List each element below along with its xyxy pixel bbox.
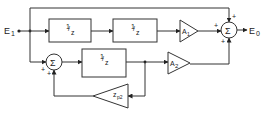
delay2-den: z <box>136 29 140 36</box>
loop-sign-bottom: + <box>47 70 51 77</box>
delay3-slash: / <box>102 55 104 62</box>
loop-sign-left: + <box>41 66 45 73</box>
loop-sum-symbol: Σ <box>50 58 56 68</box>
wire-junction-feedback <box>128 62 145 96</box>
feedback-sub: p2 <box>117 94 123 100</box>
delay1-slash: / <box>68 25 70 32</box>
summer-loop: Σ + + <box>41 54 62 77</box>
output-label: E <box>249 26 255 36</box>
delay-block-2: 1 / z <box>113 19 157 42</box>
sum-symbol: Σ <box>225 26 231 36</box>
input-label: E <box>4 26 10 36</box>
delay-block-1: 1 / z <box>49 19 91 42</box>
wire-in-loopsum <box>30 31 46 62</box>
output-label-sub: 0 <box>256 30 260 37</box>
summer-output: Σ + + + <box>214 13 237 45</box>
a1-sub: 1 <box>187 31 190 37</box>
input-label-sub: 1 <box>11 30 15 37</box>
gain-a1: A 1 <box>180 20 198 42</box>
sum-sign-bottom: + <box>221 38 225 45</box>
sum-sign-top: + <box>232 13 236 20</box>
delay2-slash: / <box>133 25 135 32</box>
gain-feedback: z p2 <box>93 84 128 108</box>
delay-block-3: 1 / z <box>82 49 126 77</box>
delay3-den: z <box>105 59 109 66</box>
output-node: E 0 <box>249 26 260 37</box>
block-diagram: E 1 1 / z 1 / z 1 / z <box>0 0 264 116</box>
gain-a2: A 2 <box>168 52 190 74</box>
sum-sign-left: + <box>214 22 218 29</box>
delay1-den: z <box>71 29 75 36</box>
